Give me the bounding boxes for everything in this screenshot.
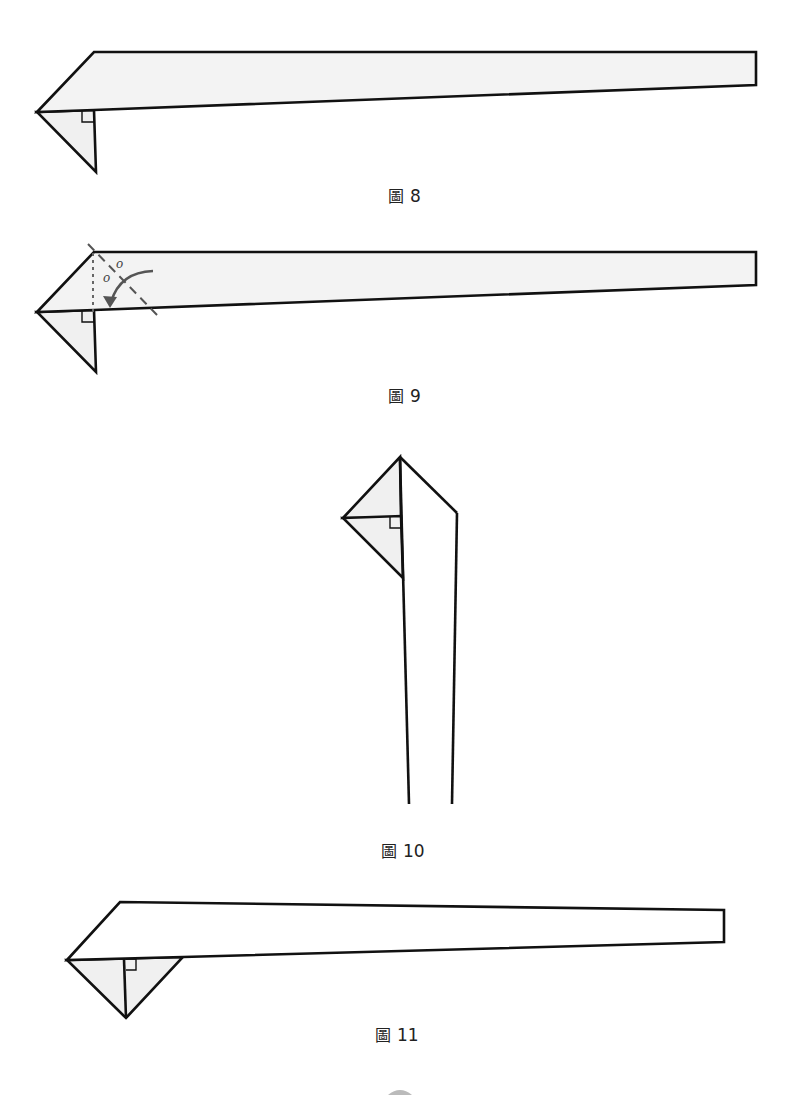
figure-8: o o <box>0 0 795 1095</box>
caption-figure-11: 圖11 <box>375 1022 419 1046</box>
caption-figure-9: 圖9 <box>388 383 421 407</box>
caption-figure-8: 圖8 <box>388 183 421 207</box>
page-corner-decoration <box>388 1090 412 1095</box>
angle-label-o-lower: o <box>103 271 110 285</box>
caption-prefix: 圖 <box>388 387 404 406</box>
caption-number: 9 <box>410 386 421 406</box>
figure-11-drawing <box>67 902 724 1018</box>
caption-figure-10: 圖10 <box>381 838 425 862</box>
caption-prefix: 圖 <box>388 187 404 206</box>
figure-10-drawing <box>343 457 457 804</box>
caption-number: 8 <box>410 186 421 206</box>
angle-label-o-upper: o <box>116 257 123 271</box>
figure-9-drawing <box>37 244 756 372</box>
caption-prefix: 圖 <box>381 842 397 861</box>
caption-number: 11 <box>397 1025 419 1045</box>
caption-prefix: 圖 <box>375 1026 391 1045</box>
caption-number: 10 <box>403 841 425 861</box>
figure-8-drawing <box>37 52 756 172</box>
